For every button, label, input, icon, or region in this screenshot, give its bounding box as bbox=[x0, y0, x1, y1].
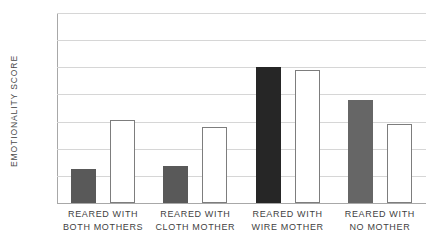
bar-filled-group-3 bbox=[256, 67, 281, 203]
category-label-line: NO MOTHER bbox=[334, 221, 426, 234]
category-label-line: REARED WITH bbox=[334, 208, 426, 221]
bars-group bbox=[57, 13, 426, 203]
y-axis-title: EMOTIONALITY SCORE bbox=[9, 21, 19, 201]
emotionality-score-bar-chart: EMOTIONALITY SCORE 01234567 REARED WITHB… bbox=[0, 0, 431, 250]
category-label-1: REARED WITHBOTH MOTHERS bbox=[57, 208, 149, 233]
category-label-line: REARED WITH bbox=[57, 208, 149, 221]
gridline-0 bbox=[57, 203, 426, 204]
category-label-line: BOTH MOTHERS bbox=[57, 221, 149, 234]
plot-area bbox=[57, 13, 426, 203]
category-label-line: WIRE MOTHER bbox=[242, 221, 334, 234]
bar-open-group-2 bbox=[202, 127, 227, 203]
bar-filled-group-1 bbox=[71, 169, 96, 203]
category-label-3: REARED WITHWIRE MOTHER bbox=[242, 208, 334, 233]
bar-open-group-4 bbox=[387, 124, 412, 203]
bar-filled-group-2 bbox=[163, 166, 188, 203]
category-label-4: REARED WITHNO MOTHER bbox=[334, 208, 426, 233]
category-label-line: REARED WITH bbox=[242, 208, 334, 221]
category-label-line: CLOTH MOTHER bbox=[149, 221, 241, 234]
bar-open-group-1 bbox=[110, 120, 135, 203]
x-axis-category-labels: REARED WITHBOTH MOTHERSREARED WITHCLOTH … bbox=[57, 208, 426, 250]
bar-open-group-3 bbox=[295, 70, 320, 203]
category-label-2: REARED WITHCLOTH MOTHER bbox=[149, 208, 241, 233]
category-label-line: REARED WITH bbox=[149, 208, 241, 221]
bar-filled-group-4 bbox=[348, 100, 373, 203]
